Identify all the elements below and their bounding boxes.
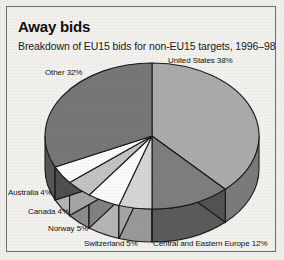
slice-label-canada: Canada 4% bbox=[28, 207, 69, 216]
slice-label-central-eastern-europe: Central and Eastern Europe 12% bbox=[153, 239, 267, 248]
page-title: Away bids bbox=[18, 18, 90, 35]
slice-label-switzerland: Switzerland 5% bbox=[84, 239, 138, 248]
slice-label-other: Other 32% bbox=[45, 68, 82, 77]
pie-chart: United States 38% Other 32% Australia 4%… bbox=[0, 48, 284, 260]
slice-label-norway: Norway 5% bbox=[48, 224, 88, 233]
pie-chart-svg bbox=[0, 48, 284, 260]
slice-label-united-states: United States 38% bbox=[168, 56, 233, 65]
pie-slices bbox=[45, 63, 259, 242]
slice-label-australia: Australia 4% bbox=[8, 188, 52, 197]
chart-screenshot: Away bids Breakdown of EU15 bids for non… bbox=[0, 0, 284, 260]
